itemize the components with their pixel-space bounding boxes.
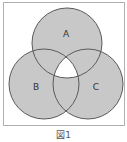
figure-caption: 図1 [0, 128, 127, 141]
label-b: B [33, 82, 39, 92]
venn-diagram: A B C [0, 0, 127, 142]
label-c: C [93, 82, 99, 92]
label-a: A [63, 29, 70, 39]
